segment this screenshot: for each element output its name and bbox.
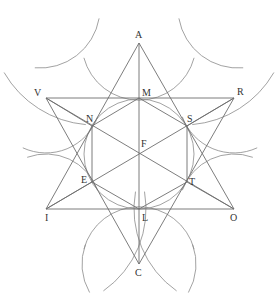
segment-LE [92, 182, 139, 209]
point-label-L: L [142, 212, 148, 223]
star-lines [46, 43, 234, 264]
segment-LT [139, 182, 187, 209]
point-label-M: M [142, 87, 151, 98]
point-label-V: V [34, 87, 42, 98]
point-label-S: S [187, 113, 193, 124]
point-label-N: N [86, 113, 93, 124]
point-label-A: A [135, 29, 143, 40]
point-label-F: F [141, 138, 147, 149]
construction-arc [188, 245, 196, 293]
construction-arc [4, 73, 86, 125]
point-label-O: O [230, 212, 237, 223]
point-label-E: E [81, 174, 87, 185]
segment-RS [187, 98, 234, 126]
construction-arc [82, 245, 90, 293]
point-label-C: C [135, 267, 142, 278]
point-label-R: R [237, 86, 244, 97]
segment-IE [46, 182, 92, 209]
construction-arc [35, 18, 99, 68]
hexagram-diagram: AVMRNSFETILOC [0, 0, 278, 299]
construction-arc [179, 18, 243, 68]
segment-MN [92, 98, 139, 126]
segment-MS [139, 98, 187, 126]
point-label-T: T [189, 176, 195, 187]
point-label-I: I [45, 212, 48, 223]
